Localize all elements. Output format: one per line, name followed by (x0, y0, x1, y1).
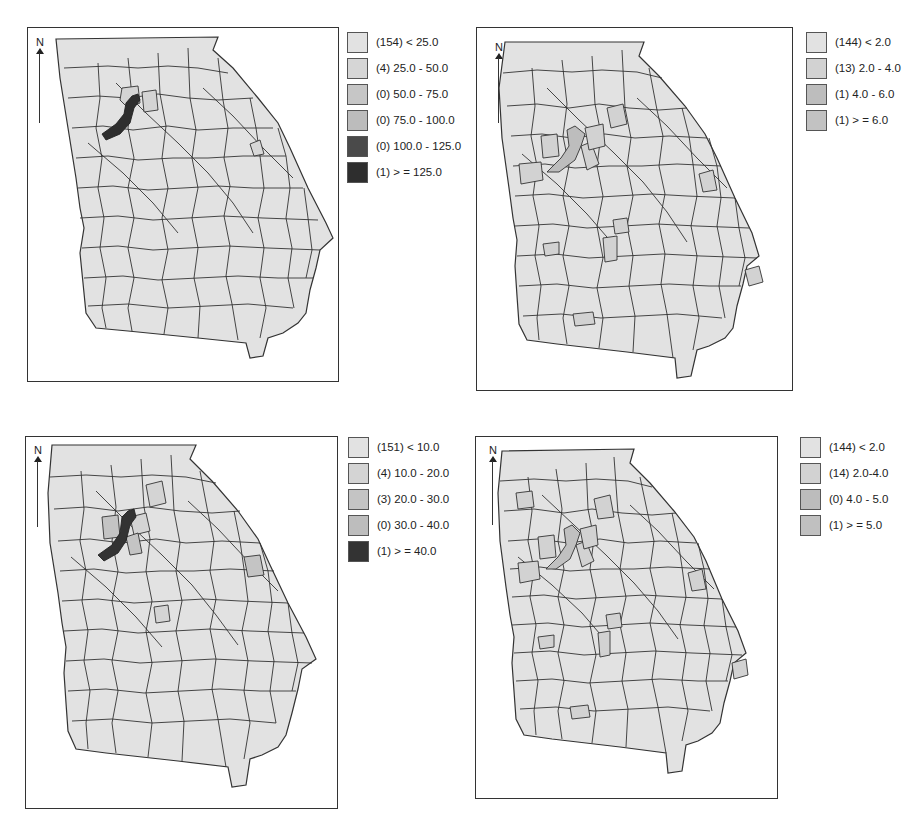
legend-item: (151) < 10.0 (348, 434, 449, 460)
county-shaded-light (745, 266, 763, 286)
county-shaded-light (516, 491, 534, 509)
legend-swatch (800, 489, 821, 510)
county-shaded-light (146, 481, 166, 507)
legend-label: (14) 2.0-4.0 (829, 467, 888, 479)
legend-label: (13) 2.0 - 4.0 (835, 62, 901, 74)
legend-swatch (347, 58, 368, 79)
county-shaded-light (585, 124, 605, 150)
legend-item: (144) < 2.0 (806, 29, 901, 55)
map-panel-top-right: N (476, 27, 793, 391)
legend-item: (14) 2.0-4.0 (800, 460, 888, 486)
county-shaded-light (606, 613, 622, 629)
county-shaded-medium (142, 90, 158, 112)
legend-item: (3) 20.0 - 30.0 (348, 486, 449, 512)
county-shaded-light (613, 218, 629, 234)
legend-swatch (348, 541, 369, 562)
georgia-county-map (477, 28, 794, 392)
legend-label: (4) 10.0 - 20.0 (377, 467, 449, 479)
legend-item: (1) 4.0 - 6.0 (806, 81, 901, 107)
county-shaded-light (594, 495, 614, 519)
legend-item: (0) 50.0 - 75.0 (347, 81, 461, 107)
legend-label: (0) 75.0 - 100.0 (376, 114, 455, 126)
legend-bottom-left: (151) < 10.0 (4) 10.0 - 20.0 (3) 20.0 - … (348, 434, 449, 564)
legend-label: (1) > = 40.0 (377, 545, 436, 557)
georgia-county-map (28, 28, 340, 383)
legend-swatch (806, 32, 827, 53)
county-shaded-light (538, 535, 556, 559)
county-shaded-light (543, 242, 559, 256)
legend-item: (13) 2.0 - 4.0 (806, 55, 901, 81)
county-shaded-light (519, 162, 543, 184)
legend-label: (151) < 10.0 (377, 441, 439, 453)
georgia-state-outline (56, 37, 333, 358)
county-shaded-light (538, 635, 554, 649)
legend-item: (1) > = 6.0 (806, 107, 901, 133)
legend-swatch (347, 32, 368, 53)
legend-swatch (348, 437, 369, 458)
legend-label: (1) 4.0 - 6.0 (835, 88, 894, 100)
legend-swatch (806, 58, 827, 79)
legend-label: (0) 50.0 - 75.0 (376, 88, 448, 100)
legend-swatch (800, 515, 821, 536)
legend-item: (0) 30.0 - 40.0 (348, 512, 449, 538)
legend-swatch (347, 136, 368, 157)
legend-swatch (347, 162, 368, 183)
legend-label: (0) 4.0 - 5.0 (829, 493, 888, 505)
legend-swatch (806, 84, 827, 105)
county-shaded-light (598, 631, 610, 657)
legend-item: (0) 100.0 - 125.0 (347, 133, 461, 159)
legend-item: (1) > = 40.0 (348, 538, 449, 564)
legend-swatch (800, 463, 821, 484)
legend-label: (4) 25.0 - 50.0 (376, 62, 448, 74)
legend-label: (154) < 25.0 (376, 36, 438, 48)
legend-item: (0) 75.0 - 100.0 (347, 107, 461, 133)
legend-swatch (348, 463, 369, 484)
legend-label: (1) > = 6.0 (835, 114, 888, 126)
legend-label: (0) 30.0 - 40.0 (377, 519, 449, 531)
legend-label: (1) > = 5.0 (829, 519, 882, 531)
map-panel-bottom-left: N (25, 436, 338, 809)
legend-item: (0) 4.0 - 5.0 (800, 486, 888, 512)
county-shaded-medium (244, 555, 264, 577)
legend-swatch (806, 110, 827, 131)
legend-item: (144) < 2.0 (800, 434, 888, 460)
county-shaded-light (603, 236, 617, 262)
legend-label: (0) 100.0 - 125.0 (376, 140, 461, 152)
legend-item: (154) < 25.0 (347, 29, 461, 55)
legend-label: (144) < 2.0 (829, 441, 885, 453)
county-shaded-light (607, 104, 627, 128)
county-shaded-medium (102, 515, 120, 539)
legend-item: (4) 10.0 - 20.0 (348, 460, 449, 486)
county-shaded-light (570, 705, 590, 719)
legend-swatch (348, 515, 369, 536)
county-shaded-light (518, 561, 540, 583)
legend-label: (1) > = 125.0 (376, 166, 442, 178)
legend-item: (1) > = 125.0 (347, 159, 461, 185)
georgia-county-map (476, 437, 779, 800)
georgia-county-map (26, 437, 339, 810)
legend-label: (3) 20.0 - 30.0 (377, 493, 449, 505)
legend-bottom-right: (144) < 2.0 (14) 2.0-4.0 (0) 4.0 - 5.0 (… (800, 434, 888, 538)
legend-swatch (348, 489, 369, 510)
legend-swatch (800, 437, 821, 458)
map-panel-top-left: N (27, 27, 339, 382)
legend-top-left: (154) < 25.0 (4) 25.0 - 50.0 (0) 50.0 - … (347, 29, 461, 185)
legend-top-right: (144) < 2.0 (13) 2.0 - 4.0 (1) 4.0 - 6.0… (806, 29, 901, 133)
georgia-state-outline (48, 445, 316, 787)
map-panel-bottom-right: N (475, 436, 778, 799)
county-shaded-light (541, 134, 559, 158)
legend-item: (4) 25.0 - 50.0 (347, 55, 461, 81)
legend-label: (144) < 2.0 (835, 36, 891, 48)
legend-swatch (347, 110, 368, 131)
county-shaded-light (573, 312, 595, 326)
county-shaded-light (732, 659, 748, 679)
legend-swatch (347, 84, 368, 105)
legend-item: (1) > = 5.0 (800, 512, 888, 538)
county-shaded-light (154, 605, 170, 623)
